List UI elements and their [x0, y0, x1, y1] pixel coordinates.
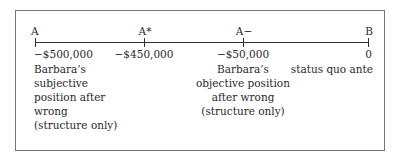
- tick-a-minus: [243, 38, 244, 47]
- tick-a: [35, 38, 36, 47]
- value-a: −$500,000: [34, 48, 93, 61]
- tick-a-star: [144, 38, 145, 47]
- description-a: Barbara’s subjective position after wron…: [34, 62, 117, 132]
- value-a-star: −$450,000: [115, 48, 174, 61]
- description-b: status quo ante: [291, 62, 373, 76]
- point-label-a-star: A*: [139, 25, 152, 38]
- point-label-a-minus: A−: [236, 25, 252, 38]
- tick-b: [368, 38, 369, 47]
- value-a-minus: −$50,000: [217, 48, 269, 61]
- number-line: [35, 42, 369, 43]
- description-a-minus: Barbara’s objective position after wrong…: [196, 62, 290, 118]
- point-label-b: B: [365, 25, 373, 38]
- point-label-a: A: [31, 25, 39, 38]
- value-b: 0: [365, 48, 372, 61]
